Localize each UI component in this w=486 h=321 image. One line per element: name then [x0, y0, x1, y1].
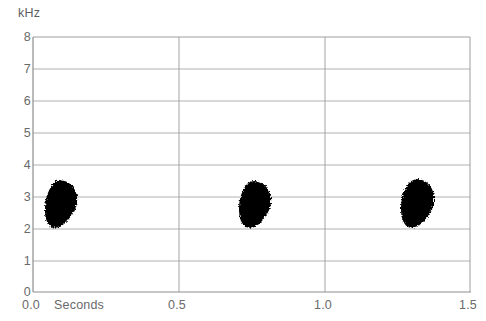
- syllable-blob-3: [401, 179, 434, 228]
- syllable-blob-2: [239, 181, 271, 228]
- y-tick-6: 6: [11, 94, 31, 108]
- y-tick-0: 0: [11, 285, 31, 299]
- y-tick-3: 3: [11, 190, 31, 204]
- y-tick-2: 2: [11, 222, 31, 236]
- x-axis-label: Seconds: [54, 298, 104, 312]
- x-tick-0: 0.0: [22, 298, 40, 312]
- y-tick-4: 4: [11, 158, 31, 172]
- spectrogram-figure: kHz: [0, 0, 486, 321]
- x-tick-1: 0.5: [168, 298, 186, 312]
- data-blobs: [45, 179, 434, 228]
- y-tick-5: 5: [11, 126, 31, 140]
- y-tick-1: 1: [11, 254, 31, 268]
- x-tick-2: 1.0: [314, 298, 332, 312]
- plot-area: [0, 0, 486, 321]
- x-tick-3: 1.5: [459, 298, 477, 312]
- y-tick-8: 8: [11, 30, 31, 44]
- syllable-blob-1: [45, 180, 77, 228]
- y-tick-7: 7: [11, 62, 31, 76]
